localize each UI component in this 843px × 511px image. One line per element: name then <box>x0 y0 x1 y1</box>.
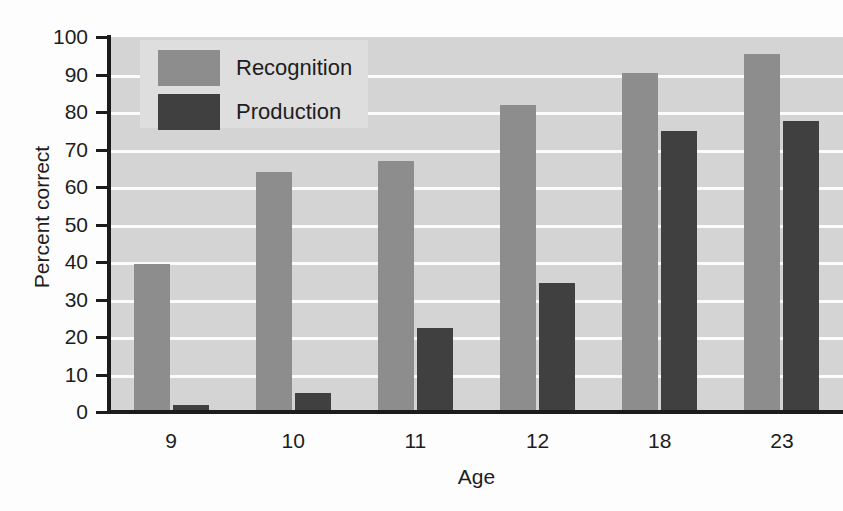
legend-swatch-production <box>158 94 220 130</box>
x-axis-line <box>107 410 843 414</box>
y-tick-mark <box>96 149 111 152</box>
gridline <box>110 262 843 265</box>
bar-production-age-12 <box>539 283 575 412</box>
y-tick-mark <box>96 299 111 302</box>
bar-recognition-age-10 <box>256 172 292 412</box>
y-tick-mark <box>96 74 111 77</box>
bar-recognition-age-23 <box>744 54 780 412</box>
x-tick-label-age-23: 23 <box>742 430 822 451</box>
gridline <box>110 187 843 190</box>
bar-chart-figure: RecognitionProduction 100908070605040302… <box>0 0 843 511</box>
gridline <box>110 225 843 228</box>
bar-production-age-23 <box>783 121 819 412</box>
x-tick-label-age-12: 12 <box>498 430 578 451</box>
y-tick-label: 0 <box>30 401 88 422</box>
legend-swatch-recognition <box>158 50 220 86</box>
y-tick-mark <box>96 411 111 414</box>
y-tick-mark <box>96 224 111 227</box>
gridline <box>110 300 843 303</box>
chart-legend: RecognitionProduction <box>140 40 368 128</box>
gridline <box>110 337 843 340</box>
bar-recognition-age-18 <box>622 73 658 412</box>
bar-production-age-18 <box>661 131 697 412</box>
x-tick-label-age-9: 9 <box>131 430 211 451</box>
legend-label-recognition: Recognition <box>236 55 352 81</box>
x-tick-label-age-11: 11 <box>375 430 455 451</box>
y-tick-mark <box>96 261 111 264</box>
x-tick-label-age-18: 18 <box>620 430 700 451</box>
bar-production-age-11 <box>417 328 453 412</box>
gridline <box>110 375 843 378</box>
plot-area: RecognitionProduction <box>110 37 843 412</box>
legend-label-production: Production <box>236 99 341 125</box>
bar-recognition-age-9 <box>134 264 170 412</box>
gridline <box>110 150 843 153</box>
y-tick-mark <box>96 111 111 114</box>
bar-recognition-age-12 <box>500 105 536 413</box>
y-tick-mark <box>96 36 111 39</box>
y-tick-mark <box>96 374 111 377</box>
y-tick-mark <box>96 186 111 189</box>
bar-recognition-age-11 <box>378 161 414 412</box>
y-tick-label: 100 <box>30 26 88 47</box>
x-tick-label-age-10: 10 <box>253 430 333 451</box>
x-axis-title: Age <box>110 465 843 489</box>
y-axis-title: Percent correct <box>30 67 54 367</box>
y-tick-mark <box>96 336 111 339</box>
